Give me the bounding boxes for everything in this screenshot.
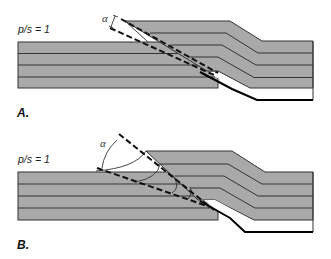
panel-b-ratio-label: p/s = 1 xyxy=(17,153,50,165)
fault-bend-fold-diagram: p/s = 1 α A. p/s = 1 xyxy=(0,0,331,259)
panel-a: p/s = 1 α A. xyxy=(16,12,313,120)
panel-a-alpha-bracket xyxy=(111,16,115,27)
panel-b-label: B. xyxy=(17,238,29,252)
panel-b-alpha-symbol: α xyxy=(100,137,106,149)
panel-b: p/s = 1 α B. xyxy=(17,134,313,252)
panel-a-alpha-symbol: α xyxy=(102,12,108,24)
panel-a-alpha-tick xyxy=(113,15,118,17)
panel-a-ratio-label: p/s = 1 xyxy=(17,23,50,35)
panel-a-label: A. xyxy=(16,106,29,120)
